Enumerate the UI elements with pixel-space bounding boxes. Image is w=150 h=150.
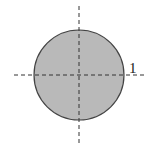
radius-label: 1 — [129, 60, 137, 76]
diagram-canvas: 1 — [0, 0, 150, 150]
